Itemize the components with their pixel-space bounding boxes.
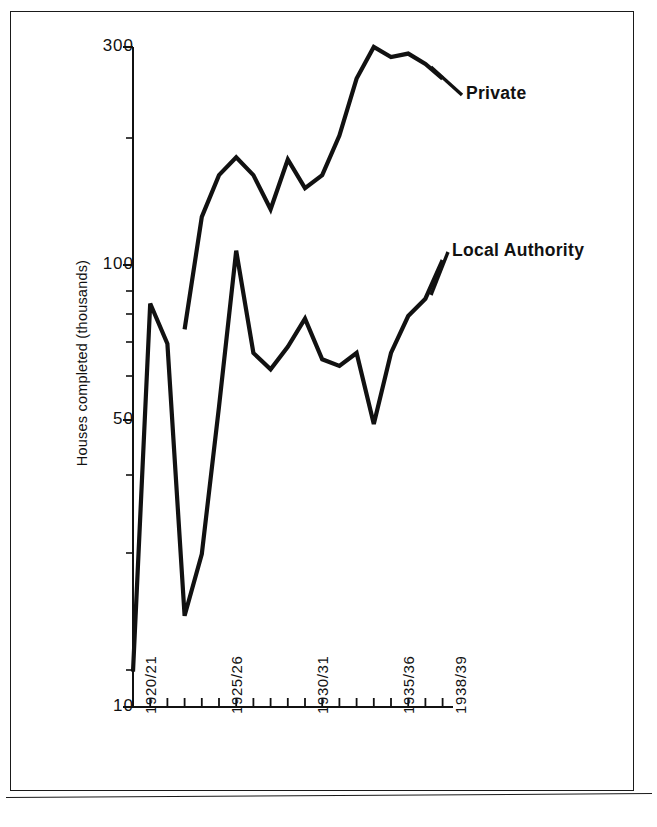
- x-tick-label-group: 1920/21 1925/26 1930/31 1935/36 1938/39: [0, 0, 657, 827]
- x-tick-label-1930-31: 1930/31: [314, 656, 331, 714]
- series-annotation-local-authority: Local Authority: [452, 240, 584, 261]
- x-tick-label-1920-21: 1920/21: [142, 656, 159, 714]
- chart-plot-area: Houses completed (thousands) 300 100 50 …: [0, 0, 657, 827]
- series-annotation-private: Private: [466, 83, 526, 104]
- x-tick-label-1938-39: 1938/39: [452, 656, 469, 714]
- x-tick-label-1925-26: 1925/26: [228, 656, 245, 714]
- x-tick-label-1935-36: 1935/36: [400, 656, 417, 714]
- figure-page: Houses completed (thousands) 300 100 50 …: [0, 0, 657, 827]
